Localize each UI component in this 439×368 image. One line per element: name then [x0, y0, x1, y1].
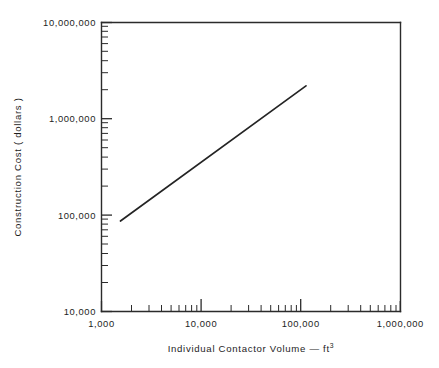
log-log-chart-figure: 10,000,000 1,000,000 100,000 10,000 1,00… [0, 0, 439, 368]
x-axis-title-superscript: 3 [330, 342, 334, 349]
x-tick-label-1000000: 1,000,000 [377, 318, 424, 329]
chart-page: 10,000,000 1,000,000 100,000 10,000 1,00… [0, 0, 439, 368]
x-tick-label-1000: 1,000 [88, 318, 114, 329]
x-tick-label-10000: 10,000 [185, 318, 217, 329]
data-line-segment [120, 86, 306, 221]
x-axis-ticks [102, 299, 401, 312]
data-series-construction-cost [120, 86, 306, 221]
x-tick-label-100000: 100,000 [282, 318, 320, 329]
y-axis-title: Construction Cost ( dollars ) [12, 97, 23, 236]
plot-frame [102, 23, 401, 312]
x-axis-title-text: Individual Contactor Volume — ft [168, 343, 330, 354]
y-axis-ticks [102, 23, 113, 312]
x-axis-title: Individual Contactor Volume — ft3 [168, 342, 335, 354]
y-tick-label-10000000: 10,000,000 [43, 17, 96, 28]
y-tick-label-100000: 100,000 [58, 210, 96, 221]
y-tick-label-1000000: 1,000,000 [49, 113, 96, 124]
y-tick-label-10000: 10,000 [64, 306, 96, 317]
